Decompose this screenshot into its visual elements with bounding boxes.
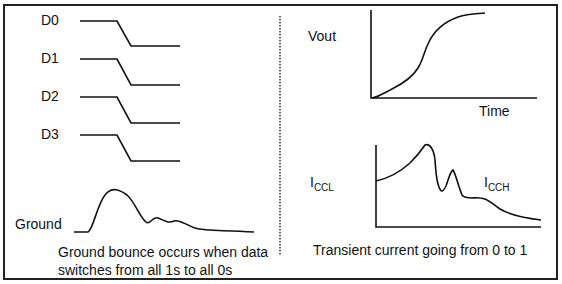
d0-waveform — [80, 21, 180, 46]
icch-label: ICCH — [484, 174, 510, 193]
vout-label: Vout — [308, 28, 336, 44]
ground-label: Ground — [15, 216, 62, 232]
signal-label-d3: D3 — [41, 126, 59, 142]
left-caption: Ground bounce occurs when data switches … — [58, 243, 268, 279]
left-caption-line1: Ground bounce occurs when data — [58, 243, 268, 261]
d3-waveform — [80, 135, 180, 161]
d2-waveform — [80, 97, 180, 123]
iccl-sub: CCL — [314, 182, 334, 193]
vout-curve — [372, 13, 485, 98]
signal-label-d2: D2 — [41, 88, 59, 104]
signal-label-d1: D1 — [41, 50, 59, 66]
vout-axes — [371, 10, 537, 98]
right-caption: Transient current going from 0 to 1 — [313, 241, 527, 259]
left-caption-line2: switches from all 1s to all 0s — [58, 261, 268, 279]
ground-bounce-curve — [74, 190, 254, 232]
iccl-label: ICCL — [310, 174, 334, 193]
time-label: Time — [479, 103, 510, 119]
signal-label-d0: D0 — [41, 12, 59, 28]
d1-waveform — [80, 59, 180, 85]
icch-sub: CCH — [488, 182, 510, 193]
transient-current-curve — [376, 145, 541, 220]
